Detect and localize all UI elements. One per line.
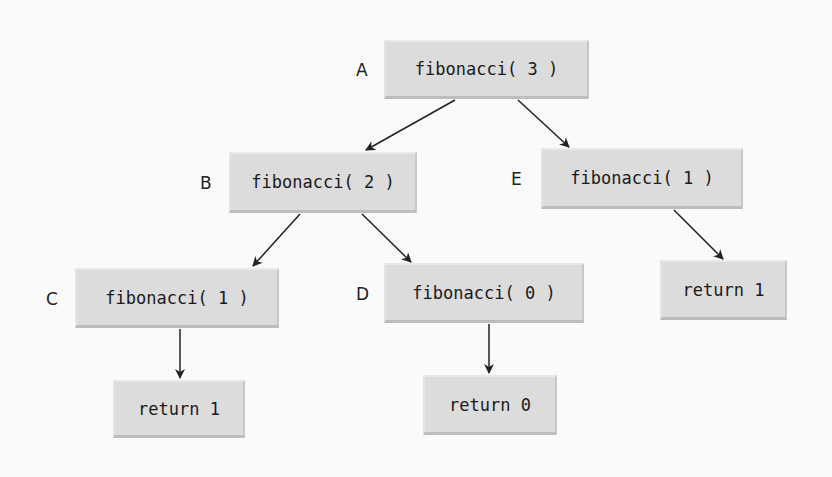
call-text: fibonacci( 1 ) bbox=[570, 168, 713, 188]
call-text: return 0 bbox=[449, 395, 531, 415]
call-box-e: fibonacci( 1 ) bbox=[541, 148, 743, 209]
node-label-c: C bbox=[46, 289, 58, 309]
arrow-e-to-r1 bbox=[674, 210, 723, 259]
call-box-b: fibonacci( 2 ) bbox=[229, 152, 417, 213]
node-label-b: B bbox=[200, 173, 212, 193]
call-box-r2: return 1 bbox=[113, 380, 245, 438]
call-text: fibonacci( 0 ) bbox=[412, 283, 555, 303]
arrow-a-to-b bbox=[366, 100, 455, 150]
call-box-c: fibonacci( 1 ) bbox=[75, 268, 279, 328]
arrow-a-to-e bbox=[518, 100, 569, 147]
call-box-a: fibonacci( 3 ) bbox=[384, 40, 589, 99]
call-text: return 1 bbox=[683, 280, 765, 300]
call-text: return 1 bbox=[138, 399, 220, 419]
call-text: fibonacci( 1 ) bbox=[105, 288, 248, 308]
node-label-e: E bbox=[511, 169, 522, 189]
call-box-r1: return 1 bbox=[660, 260, 787, 320]
call-text: fibonacci( 3 ) bbox=[415, 59, 558, 79]
node-label-d: D bbox=[356, 284, 369, 304]
arrow-b-to-c bbox=[253, 214, 300, 266]
arrow-b-to-d bbox=[362, 214, 411, 262]
call-text: fibonacci( 2 ) bbox=[251, 172, 394, 192]
call-box-r3: return 0 bbox=[423, 375, 557, 435]
node-label-a: A bbox=[356, 60, 368, 80]
call-box-d: fibonacci( 0 ) bbox=[384, 263, 584, 323]
